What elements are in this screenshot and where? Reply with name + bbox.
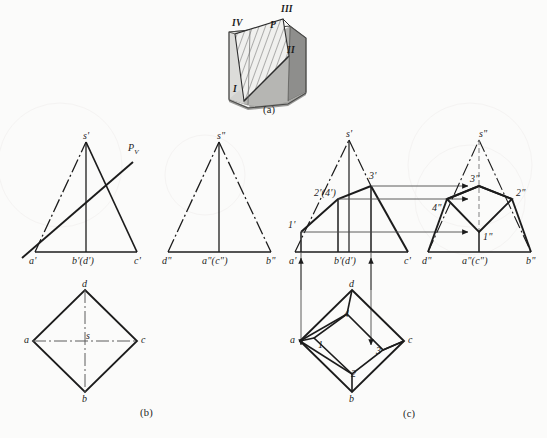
label-b-s-prime: s' <box>83 131 89 141</box>
label-b-d: d <box>82 279 87 289</box>
label-c-point-2-double: 2" <box>516 188 526 198</box>
figure-page: I II III IV P (a) s' a' b'(d') c' PV s" … <box>0 0 547 438</box>
label-c-point-1: 1 <box>318 340 323 350</box>
label-c-point-2-4-prime: 2'(4') <box>314 188 336 198</box>
label-c-point-4-double: 4" <box>432 203 442 213</box>
label-b-a-prime: a' <box>29 256 37 266</box>
label-pictorial-I: I <box>233 85 237 95</box>
label-c-b: b <box>349 394 354 404</box>
label-c-point-3-double: 3" <box>470 174 480 184</box>
label-pictorial-P: P <box>270 21 276 31</box>
label-c-bd-prime: b'(d') <box>334 256 356 266</box>
label-b-c: c <box>141 335 146 345</box>
technical-drawing-canvas <box>0 0 547 438</box>
label-c-s-prime: s' <box>346 129 352 139</box>
view-c-front <box>295 140 408 252</box>
label-b-s: s <box>86 331 90 341</box>
label-pictorial-IV: IV <box>232 19 242 29</box>
label-c-b-double: b" <box>526 256 536 266</box>
label-c-d: d <box>349 279 354 289</box>
label-b-ac-double: a"(c") <box>202 256 228 266</box>
label-c-point-1-double: 1" <box>483 232 493 242</box>
label-b-d-double: d" <box>162 256 172 266</box>
label-c-a-prime: a' <box>289 256 297 266</box>
label-c-point-1-prime: 1' <box>288 220 296 230</box>
plane-trace-subscript: V <box>134 148 138 156</box>
label-c-ac-double: a"(c") <box>462 256 488 266</box>
label-b-s-double: s" <box>217 131 226 141</box>
label-c-point-4: 4 <box>344 309 349 319</box>
caption-b: (b) <box>140 408 153 419</box>
view-b-top <box>33 290 137 392</box>
label-c-a: a <box>290 335 295 345</box>
label-b-a: a <box>24 335 29 345</box>
label-b-bd-prime: b'(d') <box>72 256 94 266</box>
view-b-side <box>168 142 271 252</box>
label-pictorial-III: III <box>281 5 293 15</box>
label-b-c-prime: c' <box>134 256 141 266</box>
caption-c: (c) <box>403 409 415 420</box>
label-c-point-3: 3 <box>376 346 381 356</box>
label-c-c-prime: c' <box>404 256 411 266</box>
label-b-b: b <box>82 394 87 404</box>
caption-a: (a) <box>263 105 275 116</box>
label-c-c: c <box>408 335 413 345</box>
label-pictorial-II: II <box>287 46 295 56</box>
label-c-d-double: d" <box>422 256 432 266</box>
label-c-s-double: s" <box>479 129 488 139</box>
pictorial-pyramid <box>229 19 306 110</box>
label-c-point-2: 2 <box>351 369 356 379</box>
label-b-plane-trace: PV <box>128 143 139 156</box>
view-b-front <box>22 142 137 258</box>
label-b-b-double: b" <box>266 256 276 266</box>
label-c-point-3-prime: 3' <box>369 171 377 181</box>
